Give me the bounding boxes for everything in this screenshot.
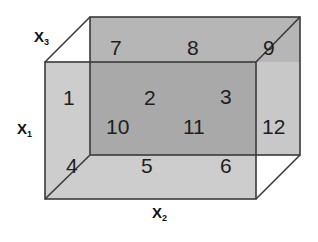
box-diagram: 7 8 9 1 2 3 10 11 12 4 5 6 X3 X1 X2 <box>0 0 318 242</box>
cell-10: 10 <box>106 115 129 138</box>
cell-8: 8 <box>187 36 199 59</box>
cell-5: 5 <box>141 154 153 177</box>
right-strip <box>256 62 300 155</box>
cell-6: 6 <box>220 154 232 177</box>
cell-4: 4 <box>66 154 78 177</box>
cell-3: 3 <box>220 85 232 108</box>
axis-label-x2: X2 <box>152 204 167 223</box>
cell-12: 12 <box>262 115 285 138</box>
cell-11: 11 <box>183 115 205 138</box>
axis-label-x3: X3 <box>34 28 49 47</box>
cell-7: 7 <box>110 36 122 59</box>
axis-label-x1: X1 <box>17 120 32 139</box>
cell-1: 1 <box>63 86 75 109</box>
overlap-region <box>90 62 256 155</box>
cell-9: 9 <box>263 36 275 59</box>
cell-2: 2 <box>144 86 156 109</box>
